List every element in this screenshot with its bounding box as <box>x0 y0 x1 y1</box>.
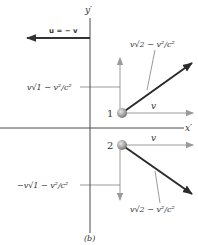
particle-2-resultant-label: v√2 − v²/c² <box>130 205 175 214</box>
velocity-diagram: y′ x′ u = − v 1 v v√1 − v²/c² v√2 − v²/c… <box>0 0 198 245</box>
frame-velocity-label: u = − v <box>49 27 78 35</box>
particle-1-icon <box>117 108 127 118</box>
particle-2-resultant-leader-line <box>155 171 160 203</box>
y-axis-label: y′ <box>84 5 92 15</box>
particle-1-resultant-leader-line <box>147 50 155 90</box>
particle-2-resultant-arrow-icon <box>122 145 192 194</box>
particle-2-group: 2 v −v√1 − v²/c² v√2 − v²/c² <box>17 133 193 214</box>
figure-caption: (b) <box>84 234 95 243</box>
particle-1-resultant-arrow-icon <box>122 63 192 113</box>
frame-velocity: u = − v <box>27 27 90 38</box>
x-axis-label: x′ <box>185 123 192 133</box>
particle-1-horizontal-label: v <box>151 101 156 111</box>
particle-1-label: 1 <box>107 108 113 119</box>
particle-1-vertical-label: v√1 − v²/c² <box>27 83 72 92</box>
particle-2-label: 2 <box>107 140 113 151</box>
particle-1-group: 1 v v√1 − v²/c² v√2 − v²/c² <box>27 40 193 119</box>
particle-2-vertical-label: −v√1 − v²/c² <box>17 181 68 190</box>
particle-2-horizontal-label: v <box>151 133 156 143</box>
particle-2-icon <box>117 140 127 150</box>
particle-1-resultant-label: v√2 − v²/c² <box>130 40 175 49</box>
